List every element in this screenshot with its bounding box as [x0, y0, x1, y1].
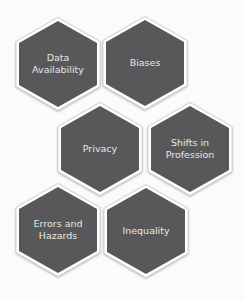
hexagon-inequality	[104, 185, 188, 278]
hexagon-diagram: DataAvailabilityBiasesPrivacyShifts inPr…	[0, 0, 245, 300]
hexagon-privacy	[58, 103, 142, 196]
hexagon-biases	[103, 17, 187, 110]
hexagon-errors-and-hazards	[16, 184, 100, 277]
hexagon-data-availability	[16, 18, 100, 111]
hexagon-shapes	[0, 0, 245, 300]
hexagon-shifts-in-profession	[148, 103, 232, 196]
